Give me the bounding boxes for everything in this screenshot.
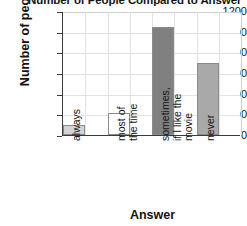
x-axis-category-label: sometimes, if I like the movie bbox=[160, 87, 195, 141]
y-axis-tick-mark bbox=[57, 136, 62, 137]
x-axis-title: Answer bbox=[0, 208, 247, 222]
x-axis-category-label: never bbox=[205, 115, 217, 141]
gridline-vertical bbox=[85, 12, 86, 135]
gridline-vertical bbox=[219, 12, 220, 135]
gridline-vertical bbox=[241, 12, 242, 135]
bar-chart: Number of People Compared to Answer Numb… bbox=[0, 0, 247, 226]
x-axis-category-label: most of the time bbox=[116, 104, 139, 141]
y-axis-title: Number of people bbox=[18, 0, 32, 108]
x-axis-category-label: always bbox=[71, 109, 83, 141]
